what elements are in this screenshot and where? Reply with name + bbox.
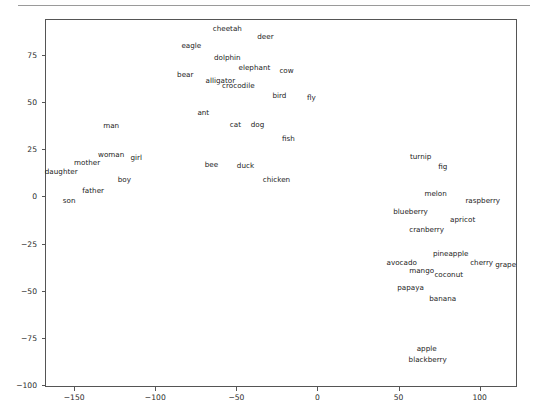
- data-point-label: father: [82, 188, 104, 195]
- y-tick-mark: [42, 196, 46, 197]
- data-point-label: mother: [74, 160, 100, 167]
- y-tick-label: 25: [27, 145, 37, 154]
- data-point-label: cheetah: [213, 26, 242, 33]
- data-point-label: blueberry: [393, 208, 428, 215]
- data-point-label: banana: [429, 296, 456, 303]
- x-tick-label: 0: [315, 393, 320, 402]
- x-tick-label: 100: [472, 393, 487, 402]
- y-tick-mark: [42, 102, 46, 103]
- data-point-label: blackberry: [409, 356, 447, 363]
- y-tick-label: 50: [27, 98, 37, 107]
- data-point-label: ant: [197, 109, 209, 116]
- data-point-label: mango: [409, 268, 434, 275]
- data-point-label: raspberry: [465, 198, 500, 205]
- y-tick-mark: [42, 244, 46, 245]
- x-tick-mark: [399, 387, 400, 391]
- y-tick-mark: [42, 55, 46, 56]
- y-tick-mark: [42, 385, 46, 386]
- x-tick-mark: [74, 387, 75, 391]
- y-tick-label: −25: [21, 239, 37, 248]
- data-point-label: melon: [424, 190, 446, 197]
- data-point-label: apple: [417, 346, 437, 353]
- x-tick-mark: [155, 387, 156, 391]
- data-point-label: cranberry: [409, 227, 444, 234]
- data-point-label: woman: [98, 151, 124, 158]
- y-tick-label: 0: [32, 192, 37, 201]
- y-tick-label: −75: [21, 333, 37, 342]
- data-point-label: eagle: [181, 42, 201, 49]
- data-point-label: crocodile: [222, 82, 254, 89]
- y-tick-mark: [42, 291, 46, 292]
- y-tick-mark: [42, 149, 46, 150]
- data-point-label: elephant: [239, 65, 271, 72]
- data-point-label: fig: [438, 164, 447, 171]
- x-tick-label: 50: [394, 393, 404, 402]
- data-point-label: grape: [495, 262, 516, 269]
- y-tick-label: −100: [16, 381, 37, 390]
- data-point-label: fish: [282, 135, 295, 142]
- data-point-label: man: [103, 123, 119, 130]
- data-point-label: coconut: [434, 271, 463, 278]
- x-tick-mark: [236, 387, 237, 391]
- data-point-label: cow: [279, 67, 293, 74]
- x-tick-mark: [317, 387, 318, 391]
- data-point-label: chicken: [263, 176, 290, 183]
- data-point-label: cherry: [470, 260, 493, 267]
- x-tick-label: −50: [228, 393, 244, 402]
- data-point-label: bird: [272, 93, 286, 100]
- data-point-label: daughter: [45, 168, 78, 175]
- data-point-label: son: [63, 198, 76, 205]
- data-point-label: papaya: [397, 284, 424, 291]
- x-tick-label: −100: [145, 393, 166, 402]
- x-tick-label: −150: [64, 393, 85, 402]
- y-tick-mark: [42, 338, 46, 339]
- data-point-label: bee: [205, 162, 218, 169]
- x-tick-mark: [480, 387, 481, 391]
- data-point-label: apricot: [450, 216, 475, 223]
- data-point-label: fly: [307, 95, 316, 102]
- scatter-plot-figure: cheetahdeereagledolphinelephantcowbearal…: [0, 0, 538, 418]
- data-point-label: girl: [131, 154, 143, 161]
- data-point-label: boy: [118, 176, 131, 183]
- y-tick-label: 75: [27, 50, 37, 59]
- data-point-label: pineapple: [433, 250, 469, 257]
- data-point-label: duck: [237, 163, 254, 170]
- data-point-label: turnip: [410, 153, 431, 160]
- data-point-label: deer: [257, 34, 273, 41]
- y-tick-label: −50: [21, 286, 37, 295]
- data-point-label: dolphin: [214, 55, 241, 62]
- data-point-label: dog: [251, 122, 265, 129]
- data-point-label: cat: [230, 122, 241, 129]
- data-point-label: bear: [177, 71, 193, 78]
- plot-area: cheetahdeereagledolphinelephantcowbearal…: [45, 19, 517, 387]
